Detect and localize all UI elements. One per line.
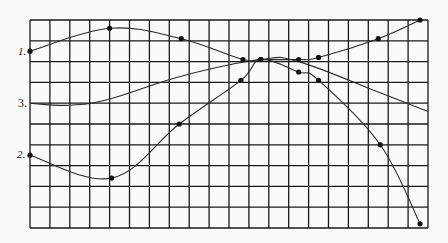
data-point: [177, 121, 182, 126]
data-point: [240, 57, 245, 62]
data-point: [238, 78, 243, 83]
data-point: [109, 175, 114, 180]
data-point: [417, 17, 422, 22]
data-point: [27, 153, 32, 158]
series-label-3: 3.: [18, 96, 27, 111]
series-label-2: 2.: [17, 148, 25, 160]
line-chart: [0, 0, 448, 243]
grid: [30, 20, 428, 228]
data-point: [258, 57, 263, 62]
data-point: [378, 142, 383, 147]
data-point: [316, 55, 321, 60]
data-point: [179, 36, 184, 41]
series-label-1: 1.: [18, 45, 26, 57]
data-point: [296, 57, 301, 62]
data-point: [417, 221, 422, 226]
curve-series-2: [30, 59, 420, 223]
data-point: [316, 78, 321, 83]
data-point: [376, 36, 381, 41]
data-points: [27, 17, 422, 226]
data-point: [296, 69, 301, 74]
data-point: [107, 26, 112, 31]
data-point: [27, 49, 32, 54]
